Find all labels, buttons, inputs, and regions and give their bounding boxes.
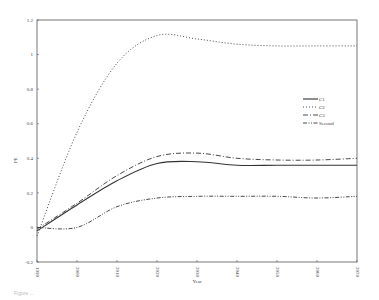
legend: C1C2C3Second xyxy=(303,97,334,126)
figure-caption: Figure ... xyxy=(14,290,34,296)
y-axis-label: PE xyxy=(13,157,18,163)
series-line-second xyxy=(37,196,357,229)
y-tick-label: -0.2 xyxy=(25,260,33,265)
series-line-c3 xyxy=(37,153,357,229)
y-tick-label: 1.2 xyxy=(27,18,34,23)
y-tick-label: 0 xyxy=(31,225,34,230)
series-line-c2 xyxy=(37,34,357,236)
legend-label: C1 xyxy=(319,97,325,102)
legend-label: Second xyxy=(319,121,334,126)
y-tick-label: 1 xyxy=(31,52,34,57)
x-tick-label: 2030 xyxy=(195,267,200,278)
line-chart: -0.200.20.40.60.811.2 199020002010202020… xyxy=(0,0,379,300)
y-tick-label: 0.6 xyxy=(27,121,34,126)
legend-label: C2 xyxy=(319,105,325,110)
x-tick-label: 2040 xyxy=(235,267,240,278)
x-tick-label: 2000 xyxy=(75,267,80,278)
y-tick-label: 0.2 xyxy=(27,191,34,196)
x-tick-label: 2020 xyxy=(155,267,160,278)
y-tick-label: 0.4 xyxy=(27,156,34,161)
legend-label: C3 xyxy=(319,113,325,118)
x-tick-label: 1990 xyxy=(35,267,40,278)
x-tick-label: 2050 xyxy=(275,267,280,278)
plot-frame xyxy=(37,20,357,262)
x-tick-label: 2070 xyxy=(355,267,360,278)
x-axis-label: Year xyxy=(192,279,202,284)
y-tick-label: 0.8 xyxy=(27,87,34,92)
x-axis-ticks: 199020002010202020302040205020602070 xyxy=(35,260,360,278)
series-lines xyxy=(37,34,357,236)
x-tick-label: 2060 xyxy=(315,267,320,278)
x-tick-label: 2010 xyxy=(115,267,120,278)
